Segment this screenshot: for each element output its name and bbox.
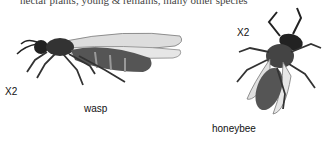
wasp-illustration [5, 30, 190, 90]
honeybee-caption: honeybee [212, 123, 256, 134]
clipped-body-text: nectar plants, young & remains, many oth… [20, 0, 248, 6]
wasp-scale-label: X2 [5, 86, 17, 97]
honeybee-scale-label: X2 [237, 27, 249, 38]
honeybee-illustration [225, 4, 325, 122]
wasp-caption: wasp [84, 103, 107, 114]
